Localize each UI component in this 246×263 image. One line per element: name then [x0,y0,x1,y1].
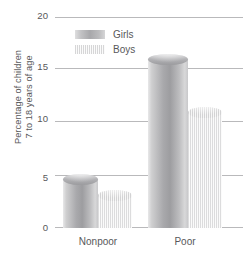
bar-chart: Percentage of children 7 to 18 years of … [0,0,246,263]
x-category-poor: Poor [150,236,220,247]
legend: Girls Boys [75,27,135,57]
y-axis-tick-labels: 20 15 10 5 0 [0,0,52,263]
bar-nonpoor-boys [98,190,132,228]
legend-item-boys: Boys [75,42,135,56]
y-tick-20: 20 [37,11,48,21]
legend-item-girls: Girls [75,27,135,41]
legend-label-girls: Girls [113,29,134,40]
legend-swatch-boys [75,45,105,54]
bar-cap-highlight [188,107,222,118]
cropped-caption-sliver [6,255,101,260]
bar-cap [188,107,222,118]
gridline-20 [55,17,243,18]
y-tick-10: 10 [37,114,48,124]
bar-cap [148,54,188,65]
bar-poor-girls [148,54,188,228]
bar-cap [63,174,98,185]
bar-body [148,59,188,228]
y-tick-15: 15 [37,62,48,72]
bar-body [63,179,98,228]
bar-cap-highlight [63,174,98,185]
bar-nonpoor-girls [63,174,98,228]
y-tick-0: 0 [43,223,48,233]
legend-swatch-girls [75,30,105,39]
x-category-nonpoor: Nonpoor [58,236,138,247]
y-tick-5: 5 [43,173,48,183]
legend-label-boys: Boys [113,44,135,55]
bar-body [188,112,222,228]
bar-cap-highlight [148,54,188,65]
bar-cap-highlight [98,190,132,201]
bar-cap [98,190,132,201]
bar-poor-boys [188,107,222,228]
